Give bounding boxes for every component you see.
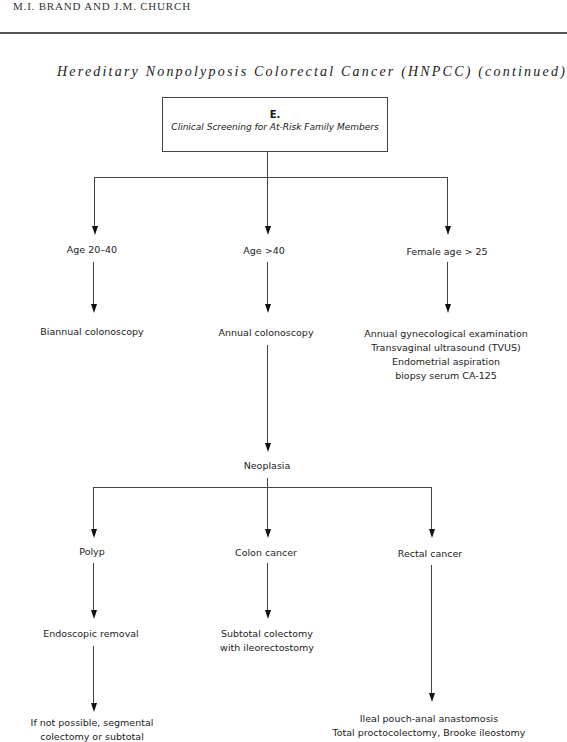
arrow-down-icon <box>265 226 271 235</box>
connector <box>447 177 448 229</box>
arrow-down-icon <box>91 304 97 313</box>
arrow-down-icon <box>91 703 97 712</box>
connector <box>267 563 268 613</box>
node-polyp: Polyp <box>79 545 105 559</box>
node-female-age-over-25: Female age > 25 <box>406 245 487 259</box>
fallback-line: If not possible, segmental <box>31 716 154 730</box>
connector <box>93 487 94 531</box>
node-polyp-fallback: If not possible, segmental colectomy or … <box>31 716 154 742</box>
arrow-down-icon <box>429 529 435 538</box>
treatment-line: with ileorectostomy <box>220 641 314 655</box>
diagram-title: Hereditary Nonpolyposis Colorectal Cance… <box>0 64 567 80</box>
running-head: M.I. BRAND AND J.M. CHURCH <box>13 0 191 12</box>
connector <box>267 152 268 232</box>
arrow-down-icon <box>92 226 98 235</box>
root-box-subtitle: Clinical Screening for At-Risk Family Me… <box>163 122 387 132</box>
connector <box>267 478 268 531</box>
arrow-down-icon <box>91 610 97 619</box>
treatment-line: Total proctocolectomy, Brooke ileostomy <box>333 726 526 740</box>
connector <box>267 262 268 307</box>
node-colon-cancer: Colon cancer <box>235 546 297 560</box>
node-neoplasia: Neoplasia <box>244 459 291 473</box>
screening-line: Endometrial aspiration <box>364 355 527 369</box>
header-rule <box>0 32 567 34</box>
connector <box>267 345 268 445</box>
arrow-down-icon <box>429 693 435 702</box>
node-biannual-colonoscopy: Biannual colonoscopy <box>40 325 143 339</box>
connector <box>431 487 432 531</box>
connector <box>94 177 95 229</box>
node-annual-colonoscopy: Annual colonoscopy <box>219 326 314 340</box>
screening-line: Annual gynecological examination <box>364 327 527 341</box>
root-box: E. Clinical Screening for At-Risk Family… <box>162 97 388 152</box>
arrow-down-icon <box>265 304 271 313</box>
connector <box>431 565 432 695</box>
connector <box>94 177 448 178</box>
node-endoscopic-removal: Endoscopic removal <box>43 627 138 641</box>
arrow-down-icon <box>445 304 451 313</box>
connector <box>93 563 94 613</box>
treatment-line: Subtotal colectomy <box>220 627 314 641</box>
node-gynecological-screening: Annual gynecological examination Transva… <box>364 327 527 383</box>
node-age-over-40: Age >40 <box>243 244 284 258</box>
fallback-line: colectomy or subtotal <box>31 730 154 742</box>
arrow-down-icon <box>91 529 97 538</box>
node-age-20-40: Age 20–40 <box>67 243 117 257</box>
arrow-down-icon <box>265 443 271 452</box>
screening-line: biopsy serum CA-125 <box>364 369 527 383</box>
arrow-down-icon <box>265 529 271 538</box>
connector <box>447 262 448 307</box>
arrow-down-icon <box>445 226 451 235</box>
root-box-letter: E. <box>163 109 387 120</box>
connector <box>93 646 94 706</box>
treatment-line: Ileal pouch-anal anastomosis <box>333 712 526 726</box>
connector <box>93 487 431 488</box>
node-rectal-treatment: Ileal pouch-anal anastomosis Total proct… <box>333 712 526 740</box>
node-rectal-cancer: Rectal cancer <box>398 547 463 561</box>
node-colon-treatment: Subtotal colectomy with ileorectostomy <box>220 627 314 655</box>
connector <box>93 262 94 307</box>
screening-line: Transvaginal ultrasound (TVUS) <box>364 341 527 355</box>
arrow-down-icon <box>265 610 271 619</box>
